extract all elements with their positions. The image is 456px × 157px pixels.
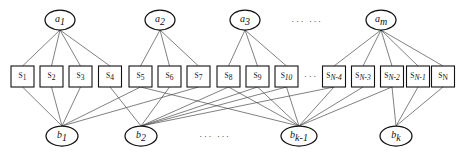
- node-box-s5: S5: [129, 66, 152, 87]
- node-ellipse-a2: a2: [145, 10, 175, 30]
- figure-canvas: S1S2S3S4S5S6S7S8S9S10SN-4SN-3SN-2SN-1SN …: [0, 0, 456, 157]
- edge-a-to-s: [160, 30, 199, 66]
- edge-s-to-b: [62, 87, 141, 126]
- edge-a-to-s: [160, 30, 170, 66]
- edge-s-to-b: [52, 87, 63, 126]
- ellipsis-s-layer: ···: [304, 71, 318, 81]
- edge-s-to-b: [141, 87, 300, 126]
- edge-s-to-b: [141, 87, 334, 126]
- edge-a-to-s: [229, 30, 246, 66]
- edge-s-to-b: [62, 87, 199, 126]
- node-ellipse-am: am: [366, 10, 396, 30]
- node-box-s9: S9: [246, 66, 269, 87]
- edges-s-to-b: [23, 87, 444, 126]
- edge-a-to-s: [23, 30, 61, 66]
- node-box-s6: S6: [158, 66, 181, 87]
- node-box-s8: S8: [217, 66, 240, 87]
- node-ellipse-bk1: bk-1: [281, 126, 317, 146]
- edge-a-to-s: [60, 30, 110, 66]
- node-box-s2: S2: [40, 66, 63, 87]
- node-ellipse-a1: a1: [45, 10, 75, 30]
- node-ellipse-b2: b2: [125, 126, 157, 146]
- a-layer-nodes: a1a2a3am: [45, 10, 396, 30]
- node-ellipse-bk: bk: [380, 126, 412, 146]
- node-box-s10: S10: [275, 66, 298, 87]
- ellipsis-b-layer: ··· ···: [199, 131, 230, 141]
- edge-s-to-b: [299, 87, 392, 126]
- node-box-sN-3: SN-3: [352, 66, 375, 87]
- s-layer-nodes: S1S2S3S4S5S6S7S8S9S10SN-4SN-3SN-2SN-1SN: [11, 66, 455, 87]
- node-box-s1: S1: [11, 66, 34, 87]
- edges-a-to-s: [23, 30, 444, 66]
- edge-s-to-b: [62, 87, 81, 126]
- edge-s-to-b: [299, 87, 363, 126]
- edge-s-to-b: [392, 87, 396, 126]
- node-box-sN: SN: [432, 66, 455, 87]
- tripartite-graph-svg: S1S2S3S4S5S6S7S8S9S10SN-4SN-3SN-2SN-1SN …: [0, 0, 456, 157]
- edge-a-to-s: [334, 30, 381, 66]
- node-box-sN-4: SN-4: [323, 66, 346, 87]
- edge-s-to-b: [396, 87, 418, 126]
- node-box-sN-1: SN-1: [407, 66, 430, 87]
- node-box-s3: S3: [69, 66, 92, 87]
- node-box-sN-2: SN-2: [381, 66, 404, 87]
- edge-a-to-s: [60, 30, 81, 66]
- edge-s-to-b: [396, 87, 443, 126]
- edge-s-to-b: [141, 87, 258, 126]
- edge-s-to-b: [141, 87, 229, 126]
- node-ellipse-b1: b1: [46, 126, 78, 146]
- edge-s-to-b: [110, 87, 141, 126]
- edge-a-to-s: [52, 30, 61, 66]
- node-ellipse-a3: a3: [230, 10, 260, 30]
- edge-a-to-s: [141, 30, 161, 66]
- node-box-s7: S7: [187, 66, 210, 87]
- edge-s-to-b: [23, 87, 63, 126]
- edge-a-to-s: [363, 30, 381, 66]
- node-box-s4: S4: [99, 66, 122, 87]
- ellipsis-a-layer: ··· ···: [291, 16, 322, 26]
